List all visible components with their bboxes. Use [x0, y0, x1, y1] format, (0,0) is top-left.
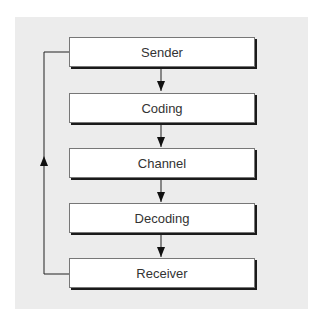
arrowhead-icon — [157, 247, 165, 257]
arrowhead-icon — [157, 137, 165, 147]
node-label: Receiver — [136, 266, 187, 281]
node-decoding: Decoding — [69, 203, 255, 233]
feedback-line — [44, 52, 69, 274]
feedback-arrowhead-icon — [40, 156, 48, 166]
node-label: Coding — [141, 101, 182, 116]
node-sender: Sender — [69, 37, 255, 67]
node-receiver: Receiver — [69, 258, 255, 288]
node-coding: Coding — [69, 93, 255, 123]
arrowhead-icon — [157, 81, 165, 91]
node-label: Channel — [138, 156, 186, 171]
node-label: Sender — [141, 45, 183, 60]
node-label: Decoding — [135, 211, 190, 226]
arrowhead-icon — [157, 192, 165, 202]
node-channel: Channel — [69, 148, 255, 178]
